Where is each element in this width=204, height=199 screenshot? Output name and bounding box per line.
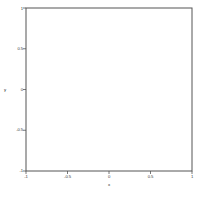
ytick-label-3: 0.5 <box>13 47 23 51</box>
xtick-label-1: -0.5 <box>64 175 71 179</box>
ytick-label-4: 1 <box>13 7 23 11</box>
figure-canvas: -1 -0.5 0 0.5 1 1 0.5 0 -0.5 -1 x y <box>0 0 204 199</box>
x-axis-label: x <box>108 183 110 187</box>
ytick-label-2: 0 <box>13 87 23 91</box>
xtick-label-4: 1 <box>191 175 193 179</box>
axes-frame <box>26 8 192 171</box>
y-axis-label: y <box>4 87 6 91</box>
ytick-label-0: -1 <box>13 168 23 172</box>
xtick-label-2: 0 <box>108 175 110 179</box>
quiver-plot <box>0 0 204 199</box>
xtick-label-0: -1 <box>24 175 28 179</box>
xtick-label-3: 0.5 <box>148 175 154 179</box>
ytick-label-1: -0.5 <box>13 128 23 132</box>
